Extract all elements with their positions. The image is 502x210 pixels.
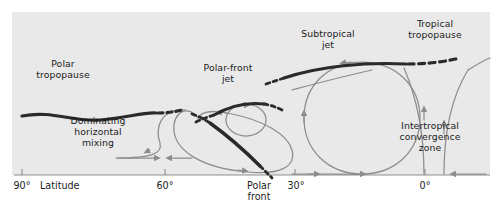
- label-polar-tropopause: Polar tropopause: [26, 58, 100, 80]
- subtropical-jet-dash-left: [266, 78, 284, 84]
- axis-label-0: 0°: [412, 180, 438, 191]
- tropical-tropopause-dashed: [408, 58, 460, 64]
- label-subtropical-jet: Subtropical jet: [286, 28, 370, 50]
- label-dominating-horizontal-mixing: Dominating horizontal mixing: [56, 115, 140, 149]
- axis-label-90: 90°: [6, 180, 38, 191]
- polar-front-line: [210, 123, 260, 166]
- polar-front-jet-dash-right: [264, 104, 282, 110]
- label-polar-front: Polar front: [238, 180, 280, 203]
- subtropical-jet-line: [284, 64, 406, 78]
- polar-tropopause-dashed: [158, 110, 182, 113]
- axis-label-latitude: Latitude: [40, 180, 92, 191]
- polar-front-jet-line: [214, 103, 264, 115]
- label-polar-front-jet: Polar-front jet: [190, 62, 266, 84]
- axis-label-30: 30°: [281, 180, 311, 191]
- axis-label-60: 60°: [150, 180, 180, 191]
- polar-front-dash-bottom: [260, 166, 272, 178]
- circulation-diagram: Polar tropopause Dominating horizontal m…: [0, 0, 502, 210]
- label-tropical-tropopause: Tropical tropopause: [392, 18, 478, 40]
- label-itcz: Intertropical convergence zone: [390, 120, 470, 154]
